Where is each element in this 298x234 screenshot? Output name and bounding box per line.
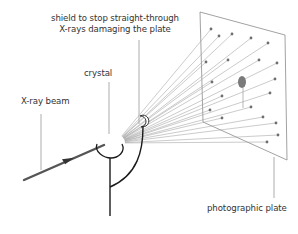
photographic-plate-label: photographic plate (207, 203, 287, 214)
shield-label-line2: X-rays damaging the plate (40, 24, 190, 35)
diffraction-diagram: shield to stop straight-through X-rays d… (0, 0, 298, 234)
crystal-halo (107, 134, 125, 152)
crystal-label: crystal (84, 68, 112, 79)
xray-beam (24, 145, 104, 180)
shield-label: shield to stop straight-through X-rays d… (40, 13, 190, 35)
shield-label-line1: shield to stop straight-through (40, 13, 190, 24)
xray-beam-label: X-ray beam (21, 96, 70, 107)
diagram-graphics (0, 0, 298, 234)
